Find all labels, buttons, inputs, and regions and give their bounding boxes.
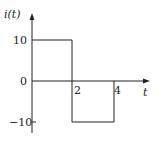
y-tick-label-0: 0 [20,75,27,88]
y-axis-arrow-icon [30,13,35,20]
x-axis-arrow-icon [143,79,150,84]
x-tick-label-2: 2 [74,84,81,97]
x-tick-label-4: 4 [114,84,121,97]
y-axis-label: i(t) [4,8,21,21]
x-axis-label: t [143,86,148,99]
chart: i(t) 10 0 −10 2 4 t [0,0,159,142]
y-tick-label-10: 10 [13,34,27,47]
y-tick-label-neg10: −10 [9,116,32,129]
